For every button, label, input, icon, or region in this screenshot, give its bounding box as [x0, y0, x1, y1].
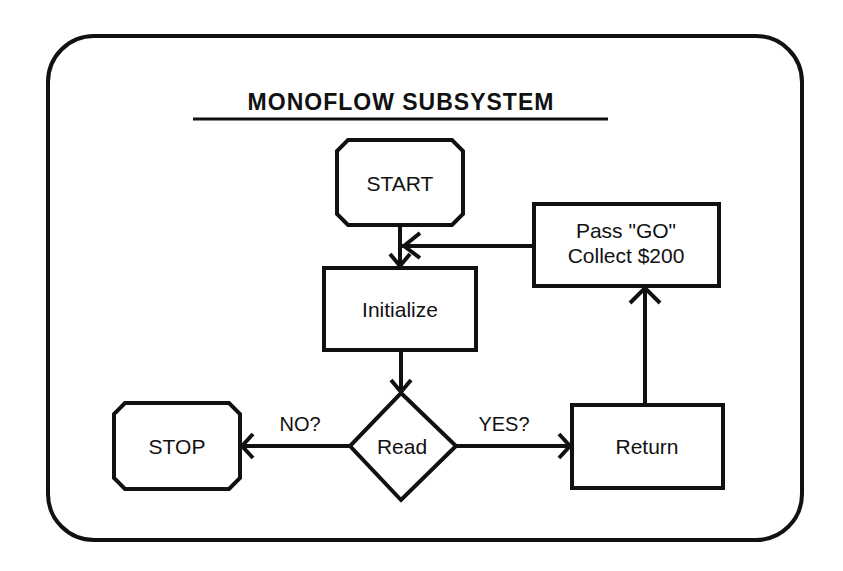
node-read: Read — [350, 393, 456, 500]
yes-label: YES? — [478, 413, 529, 435]
diagram-title: MONOFLOW SUBSYSTEM — [248, 89, 555, 115]
edge-read-to-stop: NO? — [242, 413, 350, 458]
pass-go-line1: Pass "GO" — [576, 219, 676, 242]
edge-read-to-return: YES? — [456, 413, 570, 458]
node-stop: STOP — [114, 403, 240, 489]
node-return: Return — [572, 405, 723, 488]
no-label: NO? — [279, 413, 320, 435]
read-label: Read — [377, 435, 427, 458]
edge-initialize-to-read — [391, 350, 411, 392]
node-pass-go: Pass "GO" Collect $200 — [534, 204, 719, 286]
return-label: Return — [615, 435, 678, 458]
node-initialize: Initialize — [324, 268, 476, 350]
start-label: START — [367, 172, 434, 195]
pass-go-line2: Collect $200 — [568, 244, 685, 267]
stop-label: STOP — [149, 435, 206, 458]
node-start: START — [337, 140, 463, 225]
edge-pass-go-to-initialize — [402, 233, 534, 258]
flowchart-diagram: MONOFLOW SUBSYSTEM START Pass "GO" Colle… — [0, 0, 843, 571]
edge-return-to-pass-go — [630, 288, 660, 405]
initialize-label: Initialize — [362, 298, 438, 321]
